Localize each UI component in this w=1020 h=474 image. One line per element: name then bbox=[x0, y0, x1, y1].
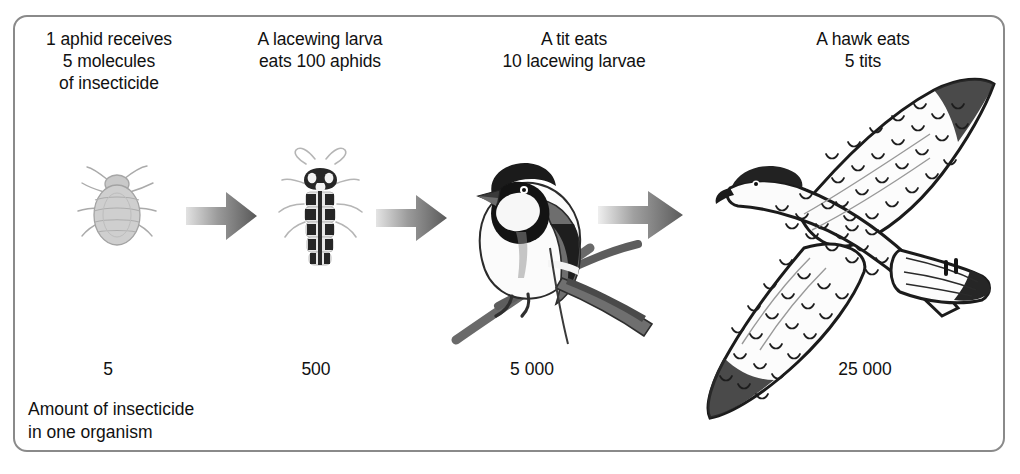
lacewing-larva-icon bbox=[268, 142, 372, 268]
arrow-right-icon bbox=[598, 186, 684, 244]
caption-lacewing-larva: A lacewing larva eats 100 aphids bbox=[222, 28, 418, 72]
amount-legend: Amount of insecticide in one organism bbox=[28, 398, 194, 444]
arrow-tit-to-hawk bbox=[598, 186, 684, 248]
arrow-aphid-to-larva bbox=[186, 188, 258, 248]
aphid-icon bbox=[62, 158, 182, 262]
amount-lacewing-larva: 500 bbox=[266, 358, 366, 380]
amount-aphid: 5 bbox=[60, 358, 156, 380]
lacewing-larva-illustration bbox=[268, 142, 372, 268]
biomagnification-figure: 1 aphid receives 5 molecules of insectic… bbox=[0, 0, 1020, 474]
arrow-right-icon bbox=[186, 188, 258, 244]
amount-hawk: 25 000 bbox=[810, 358, 920, 380]
aphid-illustration bbox=[62, 158, 182, 262]
caption-tit: A tit eats 10 lacewing larvae bbox=[472, 28, 676, 72]
caption-aphid: 1 aphid receives 5 molecules of insectic… bbox=[14, 28, 204, 94]
amount-tit: 5 000 bbox=[480, 358, 584, 380]
